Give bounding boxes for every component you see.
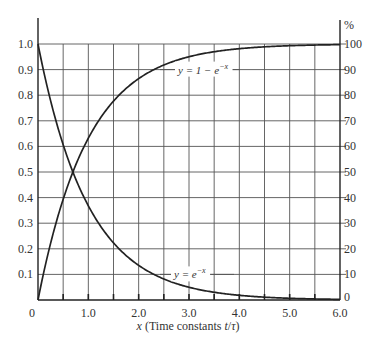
y-left-tick-label: 0.6 bbox=[18, 139, 33, 153]
y-left-tick-label: 0.7 bbox=[18, 114, 33, 128]
y-right-tick-label: 20 bbox=[344, 242, 356, 256]
x-tick-label: 4.0 bbox=[232, 306, 247, 320]
x-tick-label: 5.0 bbox=[282, 306, 297, 320]
right-axis-unit-label: % bbox=[344, 18, 354, 32]
x-tick-label: 2.0 bbox=[131, 306, 146, 320]
y-left-tick-label: 0.5 bbox=[18, 165, 33, 179]
y-right-tick-label: 80 bbox=[344, 88, 356, 102]
y-left-tick-label: 0.8 bbox=[18, 88, 33, 102]
y-left-tick-label: 0.4 bbox=[18, 191, 33, 205]
y-right-tick-label: 60 bbox=[344, 139, 356, 153]
y-right-tick-label: 90 bbox=[344, 63, 356, 77]
x-tick-label: 6.0 bbox=[333, 306, 348, 320]
chart: 01.02.03.04.05.06.00.10.20.30.40.50.60.7… bbox=[0, 0, 377, 345]
y-left-tick-label: 1.0 bbox=[18, 37, 33, 51]
y-right-tick-label: 30 bbox=[344, 216, 356, 230]
y-right-tick-label: 100 bbox=[344, 37, 362, 51]
x-tick-label: 3.0 bbox=[182, 306, 197, 320]
y-right-tick-label: 0 bbox=[344, 290, 350, 304]
x-axis-title: x (Time constants t/τ) bbox=[136, 319, 240, 333]
y-left-tick-label: 0.3 bbox=[18, 216, 33, 230]
y-right-tick-label: 10 bbox=[344, 267, 356, 281]
y-right-tick-label: 40 bbox=[344, 191, 356, 205]
grid-lines bbox=[38, 44, 346, 300]
y-left-tick-label: 0.9 bbox=[18, 63, 33, 77]
y-left-tick-label: 0.2 bbox=[18, 242, 33, 256]
y-left-tick-label: 0.1 bbox=[18, 267, 33, 281]
x-tick-label: 1.0 bbox=[81, 306, 96, 320]
x-tick-label: 0 bbox=[29, 306, 35, 320]
y-right-tick-label: 50 bbox=[344, 165, 356, 179]
y-right-tick-label: 70 bbox=[344, 114, 356, 128]
